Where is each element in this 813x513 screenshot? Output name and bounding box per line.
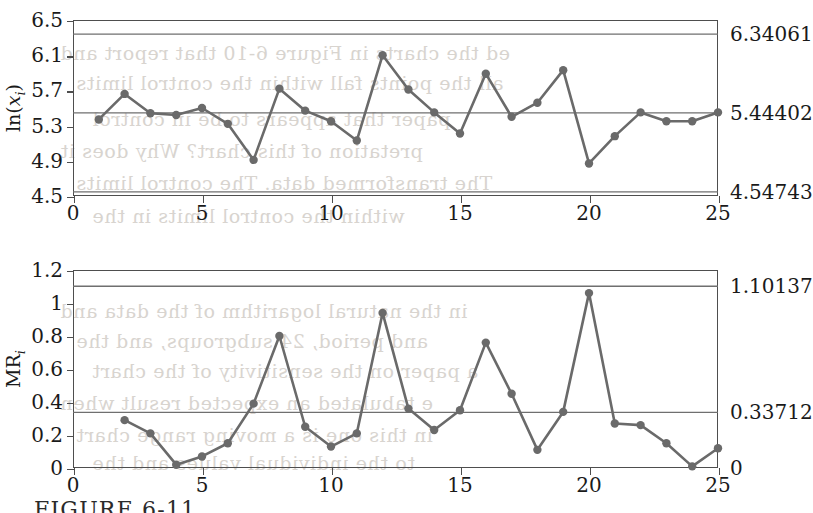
data-point — [327, 117, 335, 125]
data-series-line — [99, 55, 718, 163]
data-point — [611, 132, 619, 140]
data-point — [249, 399, 257, 407]
data-point — [636, 108, 644, 116]
data-point — [533, 446, 541, 454]
series-canvas — [0, 248, 802, 496]
data-point — [172, 111, 180, 119]
data-point — [198, 452, 206, 460]
data-point — [585, 289, 593, 297]
data-point — [456, 129, 464, 137]
data-point — [662, 117, 670, 125]
data-point — [378, 51, 386, 59]
data-point — [95, 115, 103, 123]
moving-range-chart: MRi 00.20.40.60.811.205101520251.101370.… — [0, 248, 802, 496]
data-point — [404, 404, 412, 412]
data-point — [662, 439, 670, 447]
series-canvas — [0, 0, 802, 240]
data-point — [378, 309, 386, 317]
data-point — [688, 462, 696, 470]
data-point — [456, 406, 464, 414]
data-point — [353, 136, 361, 144]
data-point — [507, 113, 515, 121]
data-point — [249, 156, 257, 164]
data-point — [120, 90, 128, 98]
data-point — [688, 117, 696, 125]
data-point — [404, 85, 412, 93]
data-point — [636, 421, 644, 429]
data-point — [533, 99, 541, 107]
data-point — [611, 419, 619, 427]
data-point — [224, 439, 232, 447]
data-point — [482, 69, 490, 77]
data-point — [224, 120, 232, 128]
data-point — [146, 429, 154, 437]
individuals-chart: ln(xi) 4.54.95.35.76.16.505101520256.340… — [0, 0, 802, 240]
data-point — [146, 109, 154, 117]
data-point — [482, 338, 490, 346]
data-point — [559, 66, 567, 74]
data-point — [327, 442, 335, 450]
data-point — [585, 159, 593, 167]
data-point — [714, 108, 722, 116]
data-point — [301, 106, 309, 114]
data-point — [120, 416, 128, 424]
data-point — [430, 426, 438, 434]
data-point — [353, 429, 361, 437]
data-point — [430, 108, 438, 116]
data-series-line — [125, 293, 718, 466]
data-point — [275, 332, 283, 340]
figure-caption: FIGURE 6-11 — [34, 497, 196, 513]
data-point — [172, 461, 180, 469]
data-point — [559, 408, 567, 416]
data-point — [301, 423, 309, 431]
data-point — [275, 84, 283, 92]
data-point — [507, 390, 515, 398]
data-point — [198, 104, 206, 112]
data-point — [714, 444, 722, 452]
